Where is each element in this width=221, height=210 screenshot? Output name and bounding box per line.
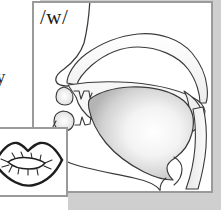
edge-text-fragment: y (0, 66, 6, 88)
lips-drawing (0, 129, 66, 195)
lower-teeth (75, 117, 91, 125)
epiglottis (174, 157, 182, 185)
lips-front-view-panel (0, 127, 68, 197)
figure-stage: /w/ (0, 0, 221, 210)
phoneme-label: /w/ (40, 7, 68, 28)
tongue-body (88, 87, 193, 180)
upper-lip (56, 87, 73, 105)
mouth-aperture (8, 158, 45, 169)
